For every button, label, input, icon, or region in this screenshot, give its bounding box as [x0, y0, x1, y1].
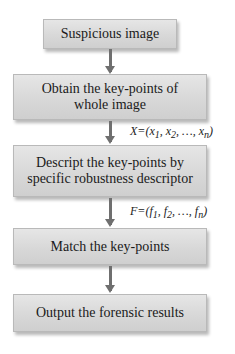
step-descript-keypoints: Descript the key-points by specific robu…: [13, 145, 207, 197]
arrow-down-icon: [109, 198, 112, 225]
step-label: Match the key-points: [51, 239, 170, 255]
edge-label-keypoints-set: X=(x1, x2, …, xn): [130, 124, 213, 140]
step-suspicious-image: Suspicious image: [43, 19, 177, 49]
step-match-keypoints: Match the key-points: [13, 228, 207, 265]
step-obtain-keypoints: Obtain the key-points of whole image: [13, 74, 207, 120]
step-label: Obtain the key-points of whole image: [26, 81, 194, 113]
edge-label-feature-set: F=(f1, f2, …, fn): [130, 204, 207, 220]
arrow-down-icon: [109, 49, 112, 72]
step-label: Descript the key-points by specific robu…: [20, 155, 200, 187]
step-label: Output the forensic results: [36, 305, 184, 321]
arrow-down-icon: [109, 266, 112, 291]
arrow-down-icon: [109, 121, 112, 142]
step-output-results: Output the forensic results: [13, 294, 207, 332]
step-label: Suspicious image: [61, 26, 159, 42]
